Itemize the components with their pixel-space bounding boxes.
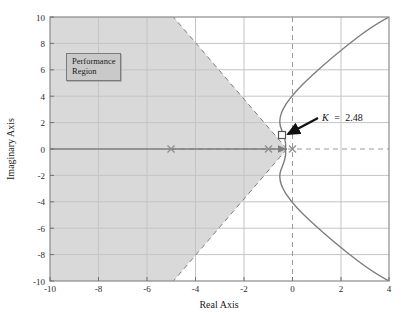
gain-annotation-label: K = 2.48 — [321, 112, 363, 123]
x-tick-label: 4 — [387, 284, 392, 294]
y-tick-labels: 10 8 6 4 2 0 -2 -4 -6 -8 -10 — [33, 13, 46, 287]
x-tick-label: -2 — [240, 284, 248, 294]
gain-marker-square — [279, 132, 286, 139]
x-axis-title: Real Axis — [199, 299, 238, 310]
gain-value: 2.48 — [345, 112, 363, 123]
y-tick-label: 0 — [41, 145, 46, 155]
x-tick-label: 2 — [339, 284, 344, 294]
plot-canvas: -10 -8 -6 -4 -2 0 2 4 10 8 6 4 2 0 -2 -4… — [0, 0, 403, 313]
y-tick-label: 10 — [36, 13, 46, 23]
x-tick-label: -10 — [44, 284, 56, 294]
gain-symbol: K — [321, 112, 330, 123]
x-tick-labels: -10 -8 -6 -4 -2 0 2 4 — [44, 284, 392, 294]
performance-region-label-box: Performance Region — [66, 53, 121, 81]
y-tick-label: 4 — [41, 92, 46, 102]
x-tick-label: -6 — [143, 284, 151, 294]
y-axis-title: Imaginary Axis — [5, 118, 16, 180]
y-tick-label: -10 — [33, 277, 45, 287]
y-tick-label: -6 — [38, 224, 46, 234]
y-tick-label: -8 — [38, 250, 46, 260]
performance-region-label-line2: Region — [72, 67, 115, 77]
y-tick-label: 8 — [41, 39, 46, 49]
gain-equals: = — [334, 112, 340, 123]
y-tick-label: 2 — [41, 118, 46, 128]
x-tick-label: -4 — [192, 284, 200, 294]
y-tick-label: -4 — [38, 197, 46, 207]
x-tick-label: -8 — [95, 284, 103, 294]
y-tick-label: 6 — [41, 65, 46, 75]
x-tick-label: 0 — [290, 284, 295, 294]
y-tick-label: -2 — [38, 171, 46, 181]
root-locus-figure: -10 -8 -6 -4 -2 0 2 4 10 8 6 4 2 0 -2 -4… — [0, 0, 403, 313]
